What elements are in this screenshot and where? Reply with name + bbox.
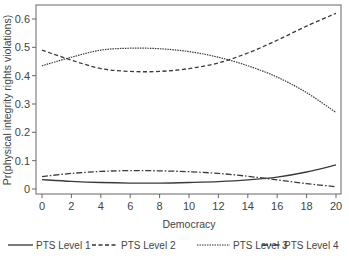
x-axis-title: Democracy	[162, 218, 216, 230]
x-axis: 02468101214161820	[39, 194, 342, 212]
x-tick-label: 12	[212, 200, 224, 212]
series-line-pts-level-1	[42, 165, 336, 183]
legend-item-pts-level-1: PTS Level 1	[8, 240, 91, 251]
series-group	[42, 13, 336, 186]
y-tick-label: 0	[24, 183, 30, 195]
y-tick-label: 0.3	[15, 98, 30, 110]
y-tick-label: 0.6	[15, 13, 30, 25]
series-line-pts-level-2	[42, 13, 336, 71]
x-tick-label: 2	[68, 200, 74, 212]
legend-label: PTS Level 1	[36, 240, 91, 251]
legend-label: PTS Level 4	[284, 240, 339, 251]
y-tick-label: 0.5	[15, 41, 30, 53]
x-tick-label: 6	[127, 200, 133, 212]
y-axis-title: Pr(physical integrity rights violations)	[1, 15, 13, 185]
y-tick-label: 0.2	[15, 126, 30, 138]
x-tick-label: 10	[183, 200, 195, 212]
y-axis: 00.10.20.30.40.50.6	[15, 13, 36, 195]
y-tick-label: 0.1	[15, 155, 30, 167]
x-tick-label: 18	[300, 200, 312, 212]
series-line-pts-level-3	[42, 48, 336, 112]
legend-label: PTS Level 3	[233, 240, 288, 251]
plot-frame	[36, 5, 341, 194]
x-tick-label: 16	[271, 200, 283, 212]
x-tick-label: 20	[330, 200, 342, 212]
legend-item-pts-level-2: PTS Level 2	[92, 240, 176, 251]
x-tick-label: 0	[39, 200, 45, 212]
series-line-pts-level-4	[42, 171, 336, 187]
x-tick-label: 4	[98, 200, 104, 212]
legend-label: PTS Level 2	[121, 240, 176, 251]
x-tick-label: 14	[242, 200, 254, 212]
legend: PTS Level 1 PTS Level 2 PTS Level 3 PTS …	[8, 240, 339, 251]
x-tick-label: 8	[157, 200, 163, 212]
chart: 00.10.20.30.40.50.6 02468101214161820 Pr…	[0, 0, 349, 260]
y-tick-label: 0.4	[15, 70, 30, 82]
